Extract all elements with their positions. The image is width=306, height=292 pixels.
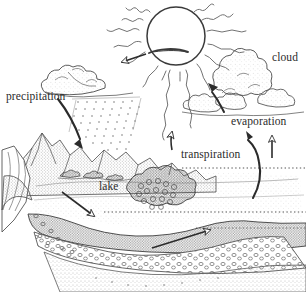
label-cloud: cloud (272, 52, 298, 64)
label-precipitation: precipitation (6, 91, 65, 103)
sun-icon (147, 7, 205, 65)
diagram-artwork (0, 0, 306, 292)
label-evaporation: evaporation (231, 116, 286, 128)
label-lake: lake (99, 181, 119, 193)
water-cycle-diagram: precipitation cloud evaporation transpir… (0, 0, 306, 292)
label-transpiration: transpiration (181, 149, 240, 161)
evaporation-up-arrow (171, 132, 172, 150)
